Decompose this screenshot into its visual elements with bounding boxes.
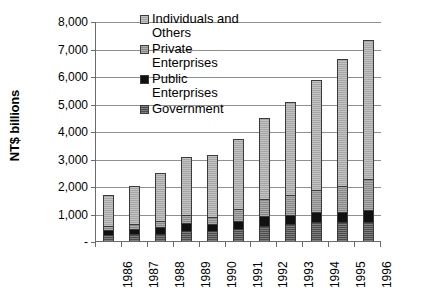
bar-segment: [337, 222, 348, 242]
x-axis-tickmark: [276, 242, 277, 247]
bar-segment: [285, 215, 296, 225]
bar-segment: [259, 199, 270, 216]
legend-label: Individuals and Others: [152, 12, 239, 40]
legend-swatch-icon: [140, 75, 149, 84]
bar-segment: [363, 210, 374, 222]
bar-group: [181, 157, 192, 242]
y-axis-tick-label: -: [84, 235, 88, 249]
bar-segment: [103, 195, 114, 225]
y-axis-tick-label: 8,000: [58, 15, 88, 29]
x-axis-tickmark: [225, 242, 226, 247]
x-axis-tickmark: [328, 242, 329, 247]
x-axis-tick-label: 1996: [380, 261, 394, 288]
bar-segment: [285, 195, 296, 214]
bar-segment: [259, 226, 270, 243]
bar-group: [311, 80, 322, 242]
legend-entry: Government: [140, 102, 290, 116]
x-axis-tick-label: 1990: [225, 261, 239, 288]
bar-segment: [233, 221, 244, 229]
y-axis-tick-label: 3,000: [58, 153, 88, 167]
legend-entry: Individuals and Others: [140, 12, 290, 40]
bar-group: [129, 186, 140, 242]
bar-segment: [207, 224, 218, 231]
x-axis-tickmark: [250, 242, 251, 247]
x-axis-tickmark: [147, 242, 148, 247]
chart-legend: Individuals and OthersPrivate Enterprise…: [140, 12, 290, 118]
x-axis-tick-label: 1992: [276, 261, 290, 288]
legend-swatch-icon: [140, 105, 149, 114]
x-axis-tickmark: [354, 242, 355, 247]
x-axis-tick-label: 1993: [302, 261, 316, 288]
bar-segment: [311, 212, 322, 222]
x-axis-tick-label: 1989: [199, 261, 213, 288]
x-axis-tick-labels: 1986198719881989199019911992199319941995…: [95, 248, 380, 286]
bar-segment: [311, 80, 322, 190]
x-axis-tick-label: 1994: [328, 261, 342, 288]
bar-segment: [233, 209, 244, 221]
y-axis-tick-label: 4,000: [58, 125, 88, 139]
bar-group: [207, 155, 218, 242]
legend-label: Public Enterprises: [152, 72, 218, 100]
bar-segment: [311, 190, 322, 212]
y-axis-tick-label: 1,000: [58, 208, 88, 222]
bar-group: [259, 118, 270, 242]
bar-group: [337, 59, 348, 242]
y-axis-title: NT$ billions: [0, 0, 30, 250]
x-axis-tick-label: 1987: [147, 261, 161, 288]
y-axis-tick-label: 5,000: [58, 98, 88, 112]
legend-swatch-icon: [140, 45, 149, 54]
bar-segment: [181, 157, 192, 215]
bar-group: [103, 195, 114, 242]
bar-segment: [363, 222, 374, 242]
bar-segment: [207, 217, 218, 224]
legend-label: Private Enterprises: [152, 42, 218, 70]
bar-segment: [363, 179, 374, 211]
bar-segment: [207, 155, 218, 217]
bar-segment: [363, 40, 374, 179]
legend-label: Government: [152, 102, 224, 116]
y-axis-tick-label: 7,000: [58, 43, 88, 57]
y-axis-tick-label: 6,000: [58, 70, 88, 84]
bar-segment: [233, 139, 244, 209]
x-axis-tickmark: [121, 242, 122, 247]
bar-segment: [155, 173, 166, 221]
x-axis-tickmark: [173, 242, 174, 247]
bar-segment: [337, 186, 348, 212]
x-axis-tickmark: [95, 242, 96, 247]
bar-group: [233, 139, 244, 242]
bar-group: [363, 40, 374, 242]
legend-entry: Public Enterprises: [140, 72, 290, 100]
bar-segment: [181, 215, 192, 223]
y-axis-tick-label: 2,000: [58, 180, 88, 194]
bar-segment: [259, 118, 270, 199]
x-axis-tickmark: [380, 242, 381, 247]
x-axis-tick-label: 1988: [173, 261, 187, 288]
bar-segment: [129, 186, 140, 225]
x-axis-tickmark: [302, 242, 303, 247]
legend-swatch-icon: [140, 15, 149, 24]
bar-segment: [181, 223, 192, 231]
x-axis-tick-label: 1991: [251, 261, 265, 288]
legend-entry: Private Enterprises: [140, 42, 290, 70]
y-axis-tick-labels: -1,0002,0003,0004,0005,0006,0007,0008,00…: [30, 0, 92, 286]
bar-segment: [337, 59, 348, 186]
x-axis-tick-label: 1995: [354, 261, 368, 288]
bar-segment: [311, 222, 322, 242]
bar-group: [155, 173, 166, 242]
y-axis-title-label: NT$ billions: [8, 89, 23, 160]
bar-segment: [337, 212, 348, 222]
bar-segment: [285, 224, 296, 242]
x-axis-tick-label: 1986: [121, 261, 135, 288]
x-axis-tickmark: [199, 242, 200, 247]
bar-segment: [259, 216, 270, 225]
bar-group: [285, 102, 296, 242]
